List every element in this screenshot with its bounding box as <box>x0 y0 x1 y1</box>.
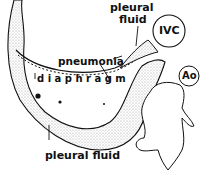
label-diaphragm: d i a p h r a g m <box>37 74 126 84</box>
pleural-fluid-top-leader <box>136 26 138 46</box>
blot-icon <box>58 100 61 103</box>
label-ao: Ao <box>182 71 197 81</box>
label-ivc: IVC <box>159 25 180 36</box>
label-pleural-fluid-bottom: pleural fluid <box>45 150 120 161</box>
label-pleural-fluid-top-2: fluid <box>119 14 147 25</box>
blot-icon <box>103 103 105 105</box>
label-pleural-fluid-top: pleural <box>110 2 154 13</box>
label-pneumonia: pneumonia <box>58 56 124 67</box>
blot-icon <box>35 93 40 98</box>
